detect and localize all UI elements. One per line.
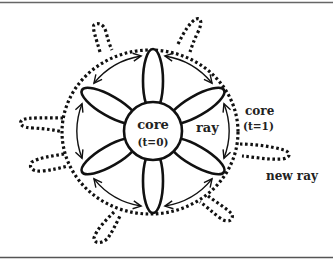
arrow-top-left — [94, 53, 141, 83]
label-core-t0-time: (t=0) — [138, 136, 169, 148]
arrow-arc — [224, 104, 229, 158]
arrow-left — [75, 104, 82, 158]
label-core-t1-time: (t=1) — [243, 120, 274, 132]
arrow-bottom-left — [94, 179, 141, 209]
label-ray: ray — [196, 120, 219, 135]
new-ray-bottom-left — [94, 212, 120, 243]
arrow-arc — [94, 56, 141, 83]
arrow-arc — [165, 179, 212, 206]
arrow-arc — [77, 104, 82, 158]
new-ray-bottom-right — [200, 196, 232, 221]
new-ray-right — [240, 144, 289, 159]
label-core-t1: core — [245, 104, 275, 118]
new-ray-top-left — [93, 24, 112, 52]
label-core-t0: core — [137, 117, 169, 132]
diagram-frame: core (t=0) ray core (t=1) new ray — [0, 0, 333, 263]
arrow-right — [223, 104, 230, 158]
new-ray-left-upper — [21, 118, 64, 132]
core-ray-diagram: core (t=0) ray core (t=1) new ray — [0, 0, 333, 263]
label-new-ray: new ray — [266, 169, 319, 183]
new-ray-top-right — [178, 19, 201, 52]
new-ray-left-lower — [30, 154, 68, 171]
